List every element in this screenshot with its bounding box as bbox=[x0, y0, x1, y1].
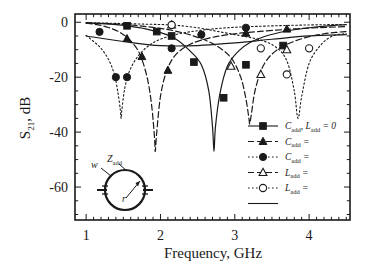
legend-label-rest: = bbox=[301, 137, 310, 147]
y-tick-label: -40 bbox=[49, 125, 68, 140]
y-tick-label: 0 bbox=[61, 15, 68, 30]
inset-label-w: w bbox=[91, 159, 98, 170]
data-point-marker bbox=[112, 74, 119, 81]
y-tick-label: -60 bbox=[49, 180, 68, 195]
data-point-marker bbox=[123, 74, 130, 81]
legend-sample-marker bbox=[259, 184, 266, 191]
figure-container: S21, dB Frequency, GHz 12340-20-40-60 Ca… bbox=[0, 0, 369, 272]
legend-label-rest: = bbox=[301, 152, 310, 162]
legend-label-rest-2: = 0 bbox=[320, 121, 336, 131]
inset-label-z-subscript: add bbox=[113, 159, 123, 166]
x-tick-label: 4 bbox=[306, 228, 313, 243]
x-tick-label: 3 bbox=[231, 228, 238, 243]
x-tick-label: 2 bbox=[157, 228, 164, 243]
data-point-marker bbox=[96, 28, 103, 35]
y-axis-label-main: S bbox=[17, 131, 33, 139]
chart-svg: S21, dB Frequency, GHz 12340-20-40-60 Ca… bbox=[0, 0, 369, 272]
legend-sample-marker bbox=[259, 153, 266, 160]
legend-label-rest: = bbox=[300, 168, 309, 178]
data-point-marker bbox=[198, 31, 205, 38]
y-axis-label-sub: 21 bbox=[26, 122, 36, 131]
y-axis-label-rest: , dB bbox=[17, 97, 33, 122]
inset-label-r: r bbox=[122, 193, 126, 204]
data-point-marker bbox=[243, 62, 250, 69]
legend-sample-marker bbox=[260, 123, 267, 130]
data-point-marker bbox=[191, 59, 198, 66]
data-point-marker bbox=[257, 45, 264, 52]
legend-label-rest: = bbox=[300, 183, 309, 193]
x-axis-label: Frequency, GHz bbox=[164, 245, 263, 261]
x-tick-label: 1 bbox=[83, 228, 90, 243]
data-point-marker bbox=[168, 21, 175, 28]
y-tick-label: -20 bbox=[49, 70, 68, 85]
data-point-marker bbox=[283, 71, 290, 78]
data-point-marker bbox=[153, 28, 160, 35]
data-point-marker bbox=[242, 24, 249, 31]
data-point-marker bbox=[220, 94, 227, 101]
data-point-marker bbox=[306, 45, 313, 52]
